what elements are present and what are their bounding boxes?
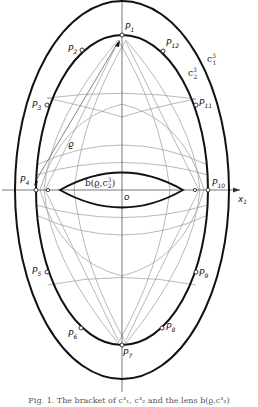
label-p6: P6 (68, 329, 77, 340)
point-p1 (120, 33, 124, 37)
label-p1: P1 (125, 22, 134, 33)
point-lens-right (193, 188, 196, 191)
point-p9 (194, 270, 198, 274)
label-origin: o (124, 192, 130, 202)
point-p12 (161, 49, 165, 53)
label-p12: P12 (166, 38, 179, 49)
label-p10: P10 (212, 178, 225, 189)
label-p2: P2 (68, 44, 77, 55)
label-p11: P11 (199, 98, 212, 109)
label-x1: x1 (237, 194, 247, 205)
point-p5 (45, 270, 49, 274)
point-p4 (34, 188, 38, 192)
label-c2: c32 (188, 66, 197, 80)
point-p6 (79, 326, 83, 330)
axis-arrow-icon (233, 188, 240, 193)
label-p5: P5 (32, 266, 41, 277)
label-p9: P9 (199, 268, 208, 279)
point-p3 (45, 103, 49, 107)
axes (2, 0, 240, 392)
figure-caption: Fig. 1. The bracket of c³₁, c³₂ and the … (0, 396, 258, 407)
label-p4: P4 (20, 175, 29, 186)
point-p7 (120, 343, 124, 347)
point-p11 (194, 103, 198, 107)
point-p2 (80, 48, 84, 52)
label-rho: ϱ (68, 139, 74, 149)
point-p10 (206, 188, 210, 192)
label-p7: P7 (123, 348, 132, 359)
geometric-diagram: P1 P2 P3 P4 P5 P6 P7 P8 P9 P10 P11 P12 c… (0, 0, 258, 407)
label-p8: P8 (166, 322, 175, 333)
label-p3: P3 (32, 100, 41, 111)
label-c1: c31 (207, 52, 216, 66)
label-lens: b(ϱ,c32) (85, 176, 115, 189)
point-p8 (160, 326, 164, 330)
point-lens-left (46, 188, 49, 191)
